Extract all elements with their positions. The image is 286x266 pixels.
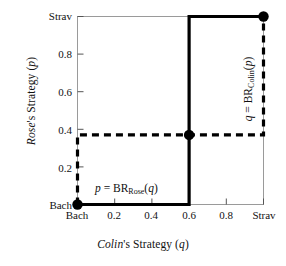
rose-curve-annotation: p = BRRose(q) <box>95 182 158 194</box>
tick-marks <box>78 17 264 205</box>
axes-box <box>78 17 264 205</box>
equilibrium-marker-mixed <box>184 130 194 140</box>
colin-curve-annotation: q = BRColin(p) <box>242 24 254 154</box>
colin-best-response-curve <box>78 17 264 205</box>
axes-frame <box>78 17 264 205</box>
rose-best-response-curve <box>78 17 264 205</box>
equilibrium-marker-bach-bach <box>72 199 82 209</box>
best-response-chart: Rose's Strategy (p) Colin's Strategy (q)… <box>0 0 286 266</box>
equilibrium-marker-strav-strav <box>258 11 268 21</box>
